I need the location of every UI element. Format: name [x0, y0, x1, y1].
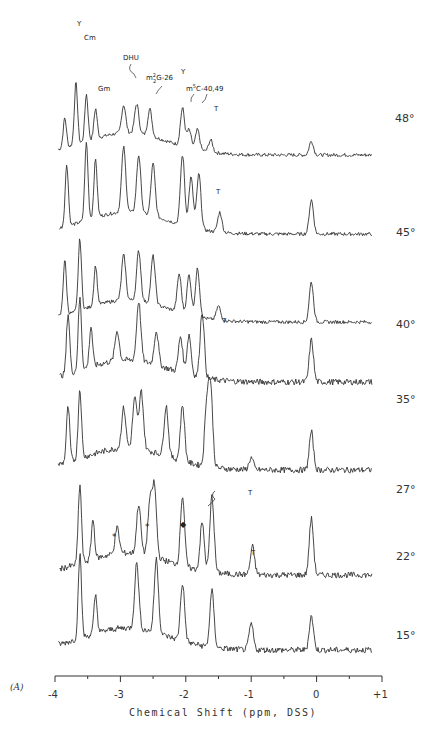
spectra-traces [58, 83, 372, 653]
spectrum-trace-40deg [58, 239, 371, 324]
spectrum-trace-48deg [58, 83, 371, 157]
tick-label-neg1: -1 [244, 689, 254, 700]
annotation-y-label: Y [76, 20, 82, 28]
spectrum-trace-22deg [60, 480, 372, 578]
annotation-star-2: * [145, 522, 150, 532]
annotation-m22g-label: m22G-26 [146, 72, 174, 84]
panel-label: (A) [10, 682, 24, 692]
m5c-arrow-icon-2 [202, 94, 207, 103]
x-axis: -4 -3 -2 -1 0 +1 Chemical Shift (ppm, DS… [48, 676, 388, 718]
m5c-arrow-icon-1 [191, 94, 194, 102]
nmr-stacked-spectra-chart: Y Cm Gm DHU m22G-26 Y m5C-40,49 T T T T … [0, 0, 433, 739]
annotation-cm-label: Cm [84, 34, 96, 42]
annotation-y2-label: Y [180, 68, 186, 76]
temp-label-15: 15° [396, 629, 416, 642]
m22g-arrow-icon [156, 86, 162, 94]
spectrum-trace-35deg [60, 297, 372, 385]
annotation-t-48: T [213, 105, 219, 113]
tick-label-neg3: -3 [114, 689, 124, 700]
dhu-arrow-icon [130, 64, 136, 78]
annotation-diamond: ◆ [180, 520, 187, 529]
tick-label-0: 0 [313, 689, 319, 700]
tick-label-neg4: -4 [48, 689, 58, 700]
annotation-star-1: * [112, 532, 117, 542]
tick-label-neg2: -2 [179, 689, 189, 700]
tick-label-pos1: +1 [373, 689, 388, 700]
temp-label-48: 48° [395, 112, 415, 125]
annotation-t-22: T [250, 549, 256, 557]
annotation-m5c-label: m5C-40,49 [186, 83, 223, 93]
annotation-t-45: T [215, 188, 221, 196]
spectrum-trace-27deg [58, 378, 371, 473]
x-axis-title: Chemical Shift (ppm, DSS) [129, 707, 317, 718]
temp-label-35: 35° [396, 393, 416, 406]
temp-label-40: 40° [396, 318, 416, 331]
annotation-t-27: T [247, 489, 253, 497]
x-axis-ticks [55, 676, 382, 682]
annotation-t-40: T [221, 317, 227, 325]
temp-label-22: 22° [396, 550, 416, 563]
temp-label-45: 45° [396, 226, 416, 239]
temp-label-27: 27° [396, 483, 416, 496]
annotation-dhu-label: DHU [123, 54, 139, 62]
annotation-gm-label: Gm [98, 85, 110, 93]
spectrum-trace-15deg [58, 554, 371, 653]
